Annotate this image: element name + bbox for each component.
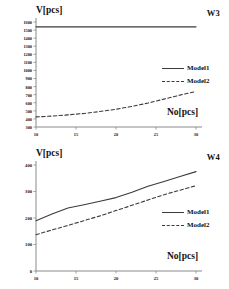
figure-two-line-charts: 3004005006007008009001000110012001300140… bbox=[0, 0, 229, 289]
svg-text:15: 15 bbox=[74, 276, 79, 281]
svg-text:25: 25 bbox=[154, 132, 158, 137]
svg-text:1300: 1300 bbox=[23, 44, 32, 49]
svg-text:500: 500 bbox=[26, 109, 32, 114]
svg-text:1000: 1000 bbox=[23, 68, 32, 73]
legend-label-model1: Model1 bbox=[187, 65, 210, 72]
legend-item-model1: Model1 bbox=[162, 206, 210, 219]
svg-text:1600: 1600 bbox=[23, 20, 32, 25]
svg-text:1200: 1200 bbox=[23, 52, 32, 57]
svg-text:700: 700 bbox=[26, 93, 32, 98]
svg-text:10: 10 bbox=[34, 276, 39, 281]
x-axis-title-w4: No[pcs] bbox=[167, 251, 198, 261]
legend-swatch-dashed-icon bbox=[162, 225, 184, 227]
legend-label-model2: Model2 bbox=[187, 222, 210, 229]
svg-text:20: 20 bbox=[114, 132, 118, 137]
legend-item-model1: Model1 bbox=[162, 62, 210, 75]
panel-label-w4: W4 bbox=[207, 152, 220, 162]
panel-label-w3: W3 bbox=[207, 8, 220, 18]
legend-item-model2: Model2 bbox=[162, 75, 210, 88]
svg-text:300: 300 bbox=[25, 189, 33, 194]
svg-text:0: 0 bbox=[30, 269, 33, 274]
legend-swatch-solid-icon bbox=[162, 68, 184, 70]
legend-w4: Model1 Model2 bbox=[162, 206, 210, 232]
legend-label-model2: Model2 bbox=[187, 78, 210, 85]
legend-item-model2: Model2 bbox=[162, 219, 210, 232]
y-axis-title-w4: V[pcs] bbox=[36, 148, 62, 158]
svg-text:800: 800 bbox=[26, 85, 32, 90]
svg-text:400: 400 bbox=[26, 117, 32, 122]
svg-text:30: 30 bbox=[194, 132, 198, 137]
legend-label-model1: Model1 bbox=[187, 209, 210, 216]
svg-text:15: 15 bbox=[74, 132, 78, 137]
svg-text:25: 25 bbox=[154, 276, 159, 281]
y-axis-title-w3: V[pcs] bbox=[36, 5, 62, 15]
legend-swatch-dashed-icon bbox=[162, 81, 184, 83]
svg-text:30: 30 bbox=[194, 276, 199, 281]
chart-panel-w4: 01002003004001015202530 V[pcs] No[pcs] W… bbox=[0, 144, 229, 289]
svg-text:20: 20 bbox=[114, 276, 119, 281]
chart-panel-w3: 3004005006007008009001000110012001300140… bbox=[0, 0, 229, 145]
svg-text:1400: 1400 bbox=[23, 36, 32, 41]
svg-text:10: 10 bbox=[34, 132, 38, 137]
svg-text:1100: 1100 bbox=[24, 60, 32, 65]
svg-text:900: 900 bbox=[26, 76, 32, 81]
legend-swatch-solid-icon bbox=[162, 212, 184, 214]
svg-text:300: 300 bbox=[26, 125, 32, 130]
svg-text:400: 400 bbox=[25, 163, 33, 168]
svg-text:1500: 1500 bbox=[23, 28, 32, 33]
legend-w3: Model1 Model2 bbox=[162, 62, 210, 88]
svg-text:200: 200 bbox=[25, 216, 33, 221]
svg-text:100: 100 bbox=[25, 242, 33, 247]
x-axis-title-w3: No[pcs] bbox=[167, 107, 198, 117]
svg-text:600: 600 bbox=[26, 101, 32, 106]
